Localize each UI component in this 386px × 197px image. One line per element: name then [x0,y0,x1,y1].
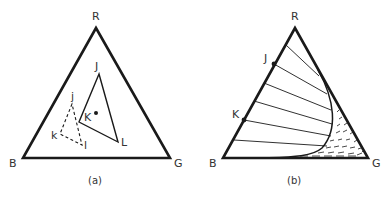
point-k-dot [94,111,98,115]
label-J-b: J [263,52,267,65]
panel-a: R B G J K L j k l (a) [9,10,183,186]
dashed-triangle-jkl [60,104,82,145]
point-k-dot-b [242,118,247,123]
vertex-label-g-a: G [174,157,183,170]
label-L-a: L [121,136,128,149]
caption-a: (a) [88,175,102,186]
label-k-a: k [51,129,58,142]
label-l-a: l [84,139,87,152]
label-j-a: j [70,90,74,103]
point-j-dot [272,62,277,67]
label-K-b: K [232,108,240,121]
solid-triangle-jkl [79,74,118,142]
panel-b: R B G J K (b) [209,10,381,186]
vertex-label-r-a: R [92,10,100,23]
tie-lines [234,45,332,146]
vertex-label-r-b: R [291,10,299,23]
vertex-label-b-b: B [209,157,217,170]
label-J-a: J [94,60,98,73]
vertex-label-g-b: G [372,157,381,170]
color-triangle-figure: R B G J K L j k l (a) [0,0,386,197]
label-K-a: K [84,111,92,124]
vertex-label-b-a: B [9,157,17,170]
caption-b: (b) [287,175,301,186]
outer-triangle-a [23,28,170,158]
outer-triangle-b [223,28,368,158]
